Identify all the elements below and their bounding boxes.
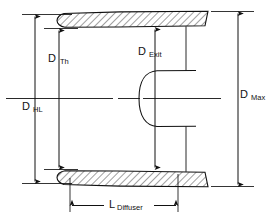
d-hl-symbol: D [22, 100, 30, 112]
label-d-hl: D HL [22, 100, 43, 114]
d-max-subscript: Max [251, 93, 265, 102]
dimension-d-hl [22, 15, 72, 184]
d-hl-subscript: HL [33, 105, 43, 114]
l-diffuser-symbol: L [109, 198, 115, 210]
label-d-max: D Max [240, 88, 265, 102]
label-l-diffuser: L Diffuser [104, 197, 154, 212]
label-d-exit: D Exit [138, 45, 162, 59]
diagram-canvas: D Th D HL D Exit D Max L Diffuser [0, 0, 267, 222]
d-th-subscript: Th [60, 57, 69, 66]
d-max-symbol: D [240, 88, 248, 100]
dimension-d-th [44, 29, 78, 170]
diffuser-diagram: D Th D HL D Exit D Max L Diffuser [0, 0, 267, 222]
lower-body-outline [57, 171, 208, 187]
d-th-symbol: D [48, 52, 56, 64]
label-d-th: D Th [48, 52, 69, 66]
lower-body [57, 171, 208, 187]
upper-body-outline [57, 11, 208, 27]
upper-body [57, 11, 208, 27]
d-exit-subscript: Exit [149, 50, 162, 59]
d-exit-symbol: D [138, 45, 146, 57]
l-diffuser-subscript: Diffuser [117, 203, 143, 212]
